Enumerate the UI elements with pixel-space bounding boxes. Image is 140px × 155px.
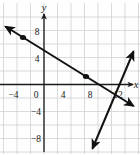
y-tick-label: −8 <box>31 134 41 144</box>
data-point-marker <box>83 74 89 79</box>
y-tick-label: 8 <box>35 27 40 37</box>
rising-line <box>93 52 134 149</box>
y-tick-label: −4 <box>31 107 41 117</box>
x-tick-label: −4 <box>8 90 18 100</box>
x-tick-label: 8 <box>88 90 93 100</box>
x-axis-label: x <box>133 79 139 90</box>
y-axis-label: y <box>41 2 47 13</box>
data-point-marker <box>20 35 26 40</box>
coordinate-graph-figure: −4 0 4 8 12 8 4 −4 −8 y x <box>0 0 140 155</box>
y-tick-label: 4 <box>35 54 40 64</box>
x-tick-label: 12 <box>113 90 123 100</box>
graph-canvas: −4 0 4 8 12 8 4 −4 −8 y x <box>0 0 140 155</box>
x-tick-label: 4 <box>61 90 66 100</box>
x-tick-label: 0 <box>34 90 39 100</box>
grid-lines <box>0 3 140 154</box>
